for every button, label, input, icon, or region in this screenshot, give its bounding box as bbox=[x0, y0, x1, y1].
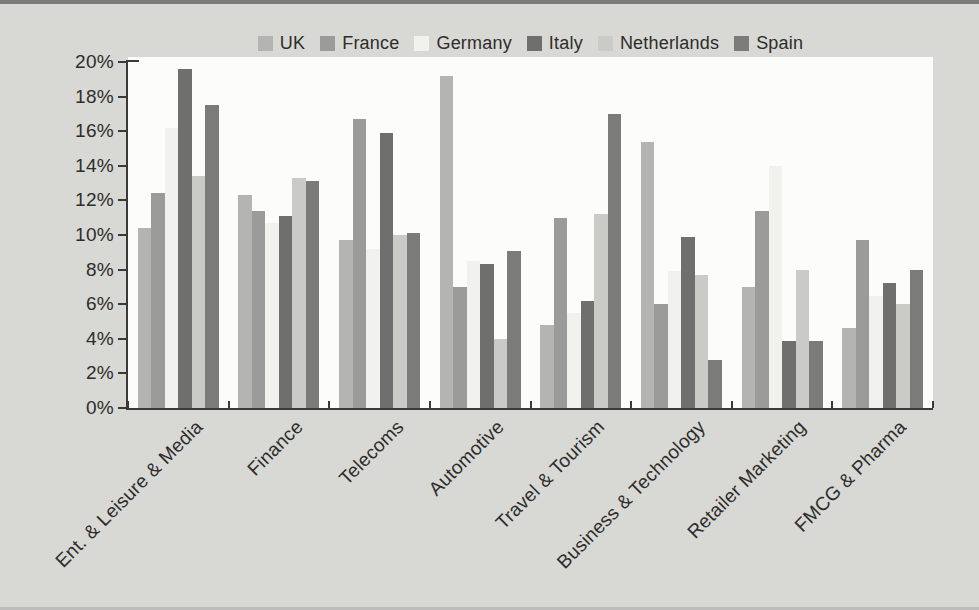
bar-netherlands-1 bbox=[292, 178, 306, 408]
bar-uk-0 bbox=[138, 228, 152, 408]
bar-uk-3 bbox=[440, 76, 454, 408]
y-axis-tick-label: 16% bbox=[54, 120, 114, 142]
y-axis-top-tick bbox=[128, 60, 139, 62]
legend-label: France bbox=[342, 33, 399, 54]
bar-netherlands-7 bbox=[896, 304, 910, 408]
scan-edge-top bbox=[0, 0, 979, 4]
bar-germany-6 bbox=[769, 166, 783, 408]
y-axis-tick-label: 18% bbox=[54, 86, 114, 108]
y-axis-line bbox=[126, 60, 128, 410]
bar-spain-2 bbox=[407, 233, 421, 408]
y-axis-tick bbox=[118, 234, 126, 236]
bar-netherlands-2 bbox=[393, 235, 407, 408]
x-axis-tick bbox=[328, 401, 330, 408]
bar-italy-7 bbox=[883, 283, 897, 408]
bar-uk-2 bbox=[339, 240, 353, 408]
bar-netherlands-5 bbox=[695, 275, 709, 408]
bar-spain-1 bbox=[306, 181, 320, 408]
legend-label: Italy bbox=[549, 33, 583, 54]
legend-swatch-icon bbox=[258, 36, 273, 51]
bar-france-0 bbox=[151, 193, 165, 408]
x-axis-tick bbox=[127, 401, 129, 408]
y-axis-tick-label: 4% bbox=[54, 328, 114, 350]
bar-france-5 bbox=[654, 304, 668, 408]
bar-uk-4 bbox=[540, 325, 554, 408]
legend-item-spain: Spain bbox=[734, 33, 803, 54]
x-axis-tick bbox=[731, 401, 733, 408]
bar-spain-6 bbox=[809, 341, 823, 408]
y-axis-tick-label: 0% bbox=[54, 397, 114, 419]
bar-france-7 bbox=[856, 240, 870, 408]
legend-label: UK bbox=[280, 33, 305, 54]
x-axis-label-2: Telecoms bbox=[335, 416, 408, 489]
y-axis-tick bbox=[118, 96, 126, 98]
bar-spain-3 bbox=[507, 251, 521, 408]
y-axis-tick bbox=[118, 61, 126, 63]
bar-italy-3 bbox=[480, 264, 494, 408]
bar-germany-3 bbox=[467, 261, 481, 408]
y-axis-tick bbox=[118, 338, 126, 340]
legend-item-netherlands: Netherlands bbox=[598, 33, 719, 54]
x-axis-label-1: Finance bbox=[243, 416, 307, 480]
y-axis-tick-label: 20% bbox=[54, 51, 114, 73]
y-axis-tick bbox=[118, 303, 126, 305]
bar-italy-2 bbox=[380, 133, 394, 408]
legend-item-germany: Germany bbox=[414, 33, 511, 54]
y-axis-tick bbox=[118, 165, 126, 167]
x-axis-tick bbox=[831, 401, 833, 408]
bar-uk-6 bbox=[742, 287, 756, 408]
bar-germany-5 bbox=[668, 271, 682, 408]
x-axis-label-4: Travel & Tourism bbox=[492, 416, 610, 534]
x-axis-tick bbox=[630, 401, 632, 408]
bar-netherlands-0 bbox=[192, 176, 206, 408]
x-axis-label-0: Ent. & Leisure & Media bbox=[51, 416, 207, 572]
bar-france-4 bbox=[554, 218, 568, 408]
bar-france-3 bbox=[453, 287, 467, 408]
y-axis-tick bbox=[118, 407, 126, 409]
y-axis-tick-label: 2% bbox=[54, 362, 114, 384]
legend-swatch-icon bbox=[527, 36, 542, 51]
y-axis-tick-label: 12% bbox=[54, 189, 114, 211]
bar-italy-5 bbox=[681, 237, 695, 408]
chart-legend: UKFranceGermanyItalyNetherlandsSpain bbox=[128, 30, 933, 56]
bar-uk-5 bbox=[641, 142, 655, 408]
y-axis-tick bbox=[118, 199, 126, 201]
x-axis-tick bbox=[429, 401, 431, 408]
bar-france-6 bbox=[755, 211, 769, 408]
y-axis-tick-label: 8% bbox=[54, 259, 114, 281]
bar-italy-6 bbox=[782, 341, 796, 408]
bar-spain-5 bbox=[708, 360, 722, 408]
legend-item-italy: Italy bbox=[527, 33, 583, 54]
legend-label: Spain bbox=[756, 33, 803, 54]
bar-uk-1 bbox=[238, 195, 252, 408]
y-axis-tick bbox=[118, 372, 126, 374]
bar-spain-4 bbox=[608, 114, 622, 408]
y-axis-tick bbox=[118, 130, 126, 132]
y-axis-tick-label: 14% bbox=[54, 155, 114, 177]
y-axis-tick-label: 10% bbox=[54, 224, 114, 246]
bar-netherlands-3 bbox=[494, 339, 508, 408]
x-axis-label-3: Automotive bbox=[425, 416, 509, 500]
bar-uk-7 bbox=[842, 328, 856, 408]
legend-label: Germany bbox=[436, 33, 511, 54]
x-axis-tick bbox=[530, 401, 532, 408]
x-axis-tick bbox=[228, 401, 230, 408]
bar-germany-0 bbox=[165, 128, 179, 408]
bar-france-2 bbox=[353, 119, 367, 408]
legend-item-france: France bbox=[320, 33, 399, 54]
bar-spain-7 bbox=[910, 270, 924, 408]
bar-germany-7 bbox=[869, 296, 883, 408]
legend-swatch-icon bbox=[320, 36, 335, 51]
x-axis-tick bbox=[932, 401, 934, 408]
legend-item-uk: UK bbox=[258, 33, 305, 54]
x-axis-label-7: FMCG & Pharma bbox=[791, 416, 911, 536]
legend-swatch-icon bbox=[598, 36, 613, 51]
legend-swatch-icon bbox=[734, 36, 749, 51]
x-axis-line bbox=[126, 408, 933, 410]
bar-italy-4 bbox=[581, 301, 595, 408]
bar-italy-0 bbox=[178, 69, 192, 408]
y-axis-tick bbox=[118, 269, 126, 271]
bar-netherlands-4 bbox=[594, 214, 608, 408]
bar-germany-2 bbox=[366, 249, 380, 408]
legend-label: Netherlands bbox=[620, 33, 719, 54]
